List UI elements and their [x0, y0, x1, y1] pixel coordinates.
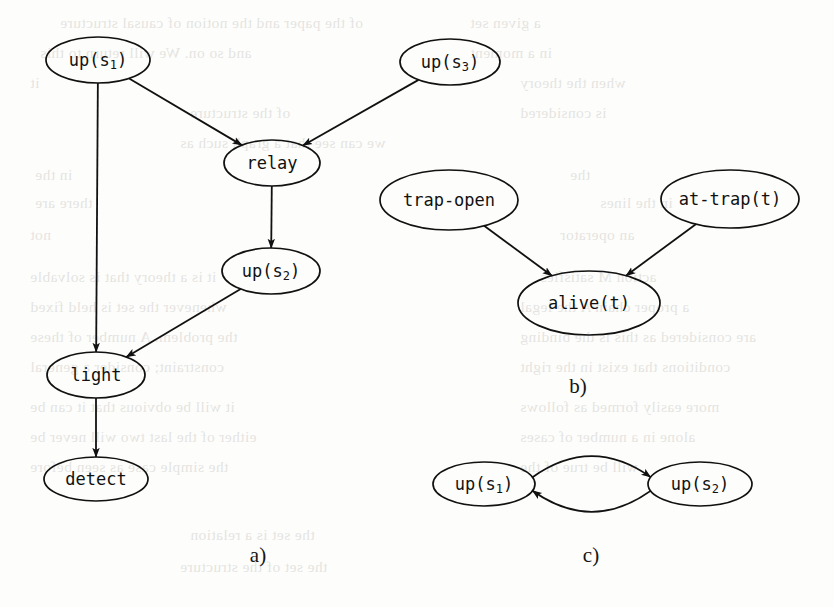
- node-label: trap-open: [403, 190, 495, 210]
- graph-node[interactable]: at-trap(t): [661, 170, 799, 228]
- graph-edge: [626, 224, 696, 275]
- graph-edge: [96, 83, 98, 352]
- node-label: at-trap(t): [679, 189, 781, 209]
- node-label: up(s1): [455, 474, 513, 496]
- graph-node[interactable]: up(s2): [648, 462, 752, 506]
- node-label: light: [70, 365, 121, 385]
- graph-node[interactable]: light: [47, 352, 145, 398]
- graph-node[interactable]: trap-open: [380, 170, 518, 230]
- panel-caption-a: a): [250, 543, 266, 567]
- graph-edge: [129, 78, 242, 145]
- panel-captions-layer: a)b)c): [250, 374, 599, 567]
- node-label: up(s2): [671, 474, 729, 496]
- graph-edge: [271, 186, 272, 248]
- graph-node[interactable]: up(s3): [400, 39, 500, 85]
- graph-node[interactable]: up(s1): [433, 462, 535, 506]
- graph-edge: [303, 80, 419, 146]
- panel-caption-c: c): [583, 543, 599, 567]
- graph-edge: [484, 226, 552, 276]
- panel-caption-b: b): [569, 374, 587, 398]
- graph-edge: [126, 289, 240, 357]
- node-label: relay: [246, 153, 297, 173]
- nodes-layer: up(s1)up(s3)relayup(s2)lightdetecttrap-o…: [44, 37, 799, 506]
- graph-node[interactable]: up(s1): [46, 37, 150, 83]
- graph-node[interactable]: alive(t): [518, 271, 660, 335]
- node-label: up(s3): [421, 52, 479, 74]
- graph-node[interactable]: up(s2): [222, 248, 320, 294]
- graph-edge: [533, 491, 651, 512]
- figure-page: of the paper and the notion of causal st…: [0, 0, 834, 607]
- graph-node[interactable]: relay: [224, 140, 320, 186]
- graph-node[interactable]: detect: [44, 457, 148, 501]
- graph-edge: [533, 456, 651, 477]
- node-label: up(s1): [69, 50, 127, 72]
- node-label: alive(t): [548, 293, 630, 313]
- node-label: up(s2): [242, 261, 300, 283]
- node-label: detect: [65, 469, 126, 489]
- graph-figure: up(s1)up(s3)relayup(s2)lightdetecttrap-o…: [0, 0, 834, 607]
